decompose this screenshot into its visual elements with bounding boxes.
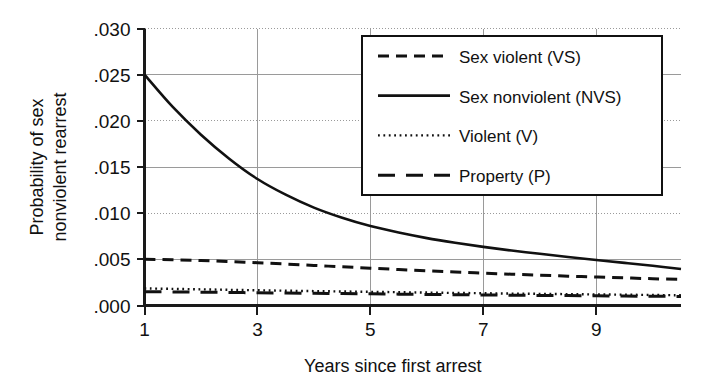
series-line-p (145, 292, 682, 297)
y-tick-label: .015 (94, 157, 131, 178)
x-tick-label: 7 (478, 319, 489, 340)
y-tick-labels: .000.005.010.015.020.025.030 (94, 19, 131, 317)
line-chart-figure: .000.005.010.015.020.025.030 13579 Sex v… (0, 0, 703, 392)
chart-container: .000.005.010.015.020.025.030 13579 Sex v… (0, 0, 703, 392)
y-tick-label: .010 (94, 203, 131, 224)
y-axis-title-line1: Probability of sex (27, 98, 47, 235)
y-tick-label: .020 (94, 111, 131, 132)
legend: Sex violent (VS)Sex nonviolent (NVS)Viol… (362, 36, 662, 195)
y-tick-label: .000 (94, 296, 131, 317)
series-line-vs (145, 259, 682, 279)
x-tick-labels: 13579 (139, 319, 601, 340)
y-tick-label: .025 (94, 65, 131, 86)
x-axis-title: Years since first arrest (304, 356, 481, 376)
x-tick-label: 1 (139, 319, 150, 340)
y-tick-label: .030 (94, 19, 131, 40)
x-tick-label: 5 (365, 319, 376, 340)
legend-label: Violent (V) (459, 127, 538, 146)
x-tick-label: 3 (252, 319, 263, 340)
legend-label: Sex violent (VS) (459, 48, 581, 67)
x-tick-label: 9 (591, 319, 602, 340)
legend-label: Property (P) (459, 167, 551, 186)
y-axis-title-line2: nonviolent rearrest (50, 92, 70, 241)
legend-label: Sex nonviolent (NVS) (459, 88, 622, 107)
y-tick-label: .005 (94, 249, 131, 270)
